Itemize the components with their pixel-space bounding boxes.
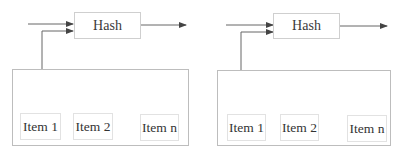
hash-label: Hash	[292, 18, 321, 34]
item-label: Item n	[350, 121, 385, 137]
item-label: Item 1	[229, 120, 264, 136]
item-label: Item n	[142, 120, 177, 136]
hash-diagram-left: Hash Item 1 Item 2 Item n	[0, 0, 201, 154]
hash-label: Hash	[93, 18, 122, 34]
item-label: Item 2	[282, 120, 317, 136]
item-n: Item n	[347, 115, 387, 142]
item-2: Item 2	[73, 113, 113, 140]
item-n: Item n	[140, 114, 179, 141]
item-2: Item 2	[280, 114, 319, 141]
item-1: Item 1	[227, 114, 266, 141]
hash-box: Hash	[74, 12, 141, 39]
item-1: Item 1	[20, 113, 61, 140]
item-label: Item 1	[23, 119, 58, 135]
item-label: Item 2	[76, 119, 111, 135]
hash-diagram-right: Hash Item 1 Item 2 Item n	[201, 0, 402, 154]
hash-box: Hash	[273, 13, 340, 39]
